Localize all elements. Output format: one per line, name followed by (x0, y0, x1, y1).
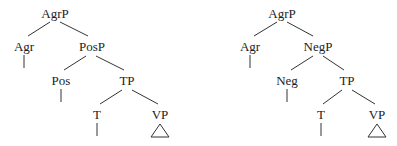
left-node-t: T (93, 108, 101, 122)
right-node-agr: Agr (240, 40, 260, 54)
left-node-tp: TP (119, 74, 134, 88)
left-node-agr: Agr (14, 40, 34, 54)
right-node-vp: VP (369, 108, 386, 122)
right-node-t: T (317, 108, 325, 122)
right-node-tp: TP (339, 74, 354, 88)
left-node-pos: Pos (52, 74, 71, 88)
left-node-posp: PosP (79, 40, 105, 54)
syntax-tree-diagram: AgrP Agr PosP Pos TP T VP AgrP Agr NegP … (0, 0, 397, 146)
right-node-agrp: AgrP (268, 7, 295, 21)
right-node-negp: NegP (304, 40, 333, 54)
right-node-neg: Neg (276, 74, 298, 88)
left-node-agrp: AgrP (41, 7, 68, 21)
left-node-vp: VP (152, 108, 169, 122)
